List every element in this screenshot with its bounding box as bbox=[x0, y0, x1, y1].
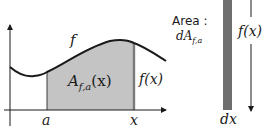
lower-bound-label: a bbox=[42, 112, 50, 126]
area-title: Area : bbox=[172, 14, 207, 28]
diagram-canvas: f Af,a(x) f(x) a x Area : dAf,a f(x) dx bbox=[0, 0, 267, 126]
area-under-curve-diagram: f Af,a(x) f(x) a x Area : dAf,a f(x) dx bbox=[0, 0, 267, 126]
curve-label: f bbox=[69, 31, 78, 49]
strip-width-label: dx bbox=[220, 111, 237, 126]
area-label-argument: (x) bbox=[91, 72, 111, 90]
upper-bound-label: x bbox=[130, 112, 138, 126]
area-label-main: A bbox=[66, 72, 79, 90]
graph-height-label: f(x) bbox=[138, 71, 163, 87]
strip-height-label: f(x) bbox=[237, 23, 262, 39]
area-symbol: dAf,a bbox=[176, 29, 203, 45]
area-symbol-main: dA bbox=[176, 29, 193, 43]
area-symbol-subscript: f,a bbox=[191, 36, 202, 45]
area-strip bbox=[223, 0, 232, 110]
area-label-subscript: f,a bbox=[78, 81, 92, 92]
